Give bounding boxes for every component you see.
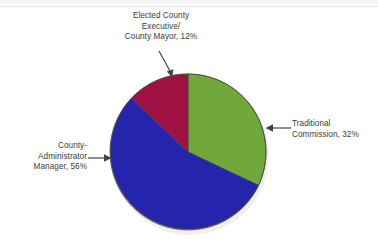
pie-label-elected-county-executive: Elected County Executive/ County Mayor, … xyxy=(100,11,222,43)
pie-label-traditional-commission: Traditional Commission, 32% xyxy=(292,119,376,140)
leader-arrow-traditional-icon xyxy=(266,124,292,131)
pie-label-county-administrator-manager: County- Administrator Manager, 56% xyxy=(2,141,87,173)
leader-arrow-administrator-icon xyxy=(88,154,112,161)
pie-chart-figure: Elected County Executive/ County Mayor, … xyxy=(0,0,378,243)
leader-arrow-elected-icon xyxy=(159,51,173,78)
